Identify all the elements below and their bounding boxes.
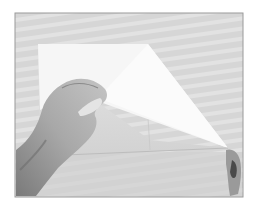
photo: Grayscale photo of two hands folding a s… — [0, 0, 260, 209]
photo-canvas — [0, 0, 260, 209]
